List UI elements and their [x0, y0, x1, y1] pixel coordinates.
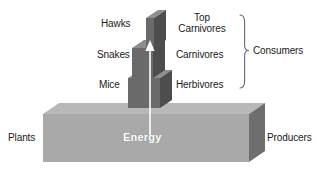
- label-top-carnivores-line1: Top: [194, 12, 210, 23]
- label-energy: Energy: [123, 131, 162, 143]
- label-producers: Producers: [267, 133, 312, 144]
- label-mice: Mice: [99, 80, 120, 91]
- label-top-carnivores-line2: Carnivores: [178, 23, 225, 34]
- label-snakes: Snakes: [97, 50, 130, 61]
- consumers-brace: [240, 15, 249, 88]
- label-hawks: Hawks: [101, 19, 131, 30]
- pyramid-artwork: [0, 0, 317, 180]
- label-consumers: Consumers: [253, 46, 303, 57]
- energy-pyramid-diagram: Hawks Snakes Mice Top Carnivores Carnivo…: [0, 0, 317, 180]
- label-herbivores: Herbivores: [176, 80, 223, 91]
- label-carnivores: Carnivores: [176, 50, 223, 61]
- tier1-front-face: [128, 78, 160, 108]
- label-plants: Plants: [8, 133, 35, 144]
- label-top-carnivores: Top Carnivores: [169, 13, 235, 34]
